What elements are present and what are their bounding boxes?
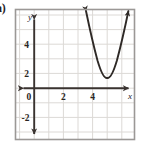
coordinate-plane-graph: 4 2 -2 0 2 4 y x bbox=[0, 0, 141, 147]
x-tick-label-4: 4 bbox=[90, 92, 95, 102]
x-tick-label-0: 0 bbox=[26, 92, 31, 102]
y-tick-label-minus-2: -2 bbox=[22, 113, 30, 123]
x-axis-label: x bbox=[127, 91, 132, 101]
x-tick-label-2: 2 bbox=[61, 92, 66, 102]
y-tick-label-2: 2 bbox=[24, 69, 29, 79]
figure-panel: a) bbox=[0, 0, 141, 147]
y-axis-label: y bbox=[27, 12, 32, 22]
plot-background bbox=[15, 9, 135, 140]
y-tick-label-4: 4 bbox=[24, 40, 29, 50]
